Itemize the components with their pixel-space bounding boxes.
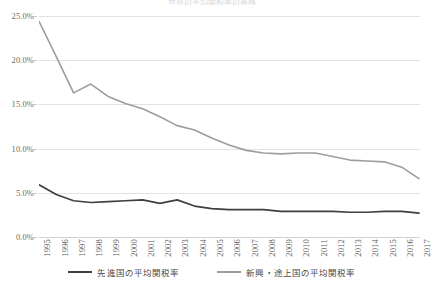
x-tick-label-2010: 2010	[301, 239, 311, 257]
x-axis: 1995199619971998199920002001200220032004…	[39, 239, 420, 263]
x-tick-label-2008: 2008	[267, 239, 277, 257]
legend-item-emerging[interactable]: 新興・途上国の平均関税率	[217, 266, 355, 278]
x-tick-label-1995: 1995	[42, 239, 52, 257]
y-tick-20	[33, 60, 37, 61]
x-tick-label-1999: 1999	[111, 239, 121, 257]
plot-area	[39, 16, 420, 237]
x-tick-label-2003: 2003	[180, 239, 190, 257]
x-tick-label-1998: 1998	[94, 239, 104, 257]
chart-legend: 先進国の平均関税率 新興・途上国の平均関税率	[0, 264, 424, 280]
gridline-0	[39, 237, 420, 238]
x-tick-label-2009: 2009	[284, 239, 294, 257]
series-layer	[39, 16, 420, 237]
y-tick-10	[33, 149, 37, 150]
y-tick-0	[33, 237, 37, 238]
x-tick-label-2002: 2002	[163, 239, 173, 257]
x-tick-label-2017: 2017	[422, 239, 432, 257]
legend-item-developed[interactable]: 先進国の平均関税率	[68, 266, 179, 278]
legend-swatch-icon-emerging	[217, 271, 241, 273]
y-tick-label-20: 20.0%	[12, 55, 34, 65]
y-axis: 0.0%5.0%10.0%15.0%20.0%25.0%	[0, 0, 37, 253]
x-tick-label-2012: 2012	[336, 239, 346, 257]
legend-label-developed: 先進国の平均関税率	[97, 266, 179, 278]
y-tick-25	[33, 16, 37, 17]
x-tick-label-2015: 2015	[388, 239, 398, 257]
y-tick-label-5: 5.0%	[16, 188, 34, 198]
x-tick-label-2004: 2004	[198, 239, 208, 257]
legend-label-emerging: 新興・途上国の平均関税率	[246, 266, 355, 278]
y-tick-15	[33, 104, 37, 105]
series-line-developed	[39, 185, 419, 213]
legend-swatch-icon-developed	[68, 271, 92, 273]
x-tick-label-1997: 1997	[77, 239, 87, 257]
x-tick-label-2016: 2016	[405, 239, 415, 257]
x-tick-label-2001: 2001	[146, 239, 156, 257]
series-line-emerging	[39, 21, 419, 178]
y-tick-label-25: 25.0%	[12, 11, 34, 21]
x-tick-label-1996: 1996	[60, 239, 70, 257]
x-tick-label-2013: 2013	[353, 239, 363, 257]
y-tick-label-0: 0.0%	[16, 232, 34, 242]
x-tick-label-2000: 2000	[129, 239, 139, 257]
x-tick-label-2011: 2011	[319, 239, 329, 257]
chart-title: 世界の平均関税率の推移	[0, 0, 424, 5]
x-tick-label-2005: 2005	[215, 239, 225, 257]
x-tick-label-2007: 2007	[250, 239, 260, 257]
x-tick-label-2006: 2006	[232, 239, 242, 257]
x-tick-label-2014: 2014	[370, 239, 380, 257]
y-tick-5	[33, 193, 37, 194]
y-tick-label-15: 15.0%	[12, 99, 34, 109]
y-tick-label-10: 10.0%	[12, 144, 34, 154]
